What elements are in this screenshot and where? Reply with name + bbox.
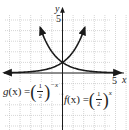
curve-f [40,28,121,73]
axes [4,8,124,130]
y-tick-label: 5 [56,14,61,24]
x-axis-label: x [122,75,126,85]
f-equation-label: f(x) = ( 12 ) x [64,90,112,108]
g-equation-label: g(x) = ( 12 ) −x [3,82,58,100]
f-exponent: x [109,90,112,97]
curve-g [4,28,85,73]
exponential-graph [0,0,129,130]
f-fraction: 12 [96,91,102,108]
g-arg: (x) = [9,86,31,97]
f-arg: (x) = [67,94,89,105]
x-tick-label: 5 [112,76,117,86]
g-fraction: 12 [37,83,43,100]
g-exponent: −x [50,82,58,89]
